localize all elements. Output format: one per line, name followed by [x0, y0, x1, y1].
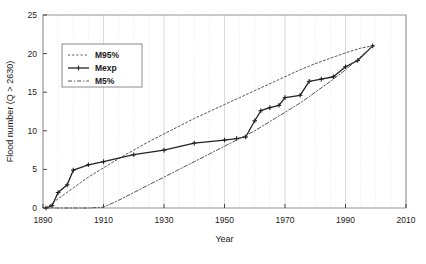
x-tick-label: 2010 [397, 215, 416, 225]
legend-label-mexp: Mexp [95, 63, 117, 73]
y-tick-label: 5 [32, 164, 37, 174]
chart-legend[interactable]: M95%MexpM5% [62, 44, 142, 87]
flood-frequency-chart-figure: 05101520251890191019301950197019902010Ye… [0, 0, 426, 264]
x-tick-label: 1930 [155, 215, 174, 225]
y-tick-label: 10 [28, 126, 38, 136]
y-tick-label: 0 [32, 203, 37, 213]
y-axis-title: Flood number (Q > 2630) [5, 61, 15, 162]
x-tick-label: 1990 [336, 215, 355, 225]
x-tick-label: 1890 [34, 215, 53, 225]
legend-label-m95pct: M95% [95, 50, 120, 60]
y-tick-label: 15 [28, 87, 38, 97]
chart-canvas: 05101520251890191019301950197019902010Ye… [0, 0, 426, 264]
y-tick-label: 25 [28, 10, 38, 20]
x-tick-label: 1970 [276, 215, 295, 225]
x-tick-label: 1950 [215, 215, 234, 225]
x-tick-label: 1910 [94, 215, 113, 225]
legend-label-m5pct: M5% [95, 76, 115, 86]
y-tick-label: 20 [28, 49, 38, 59]
x-axis-title: Year [215, 234, 233, 244]
